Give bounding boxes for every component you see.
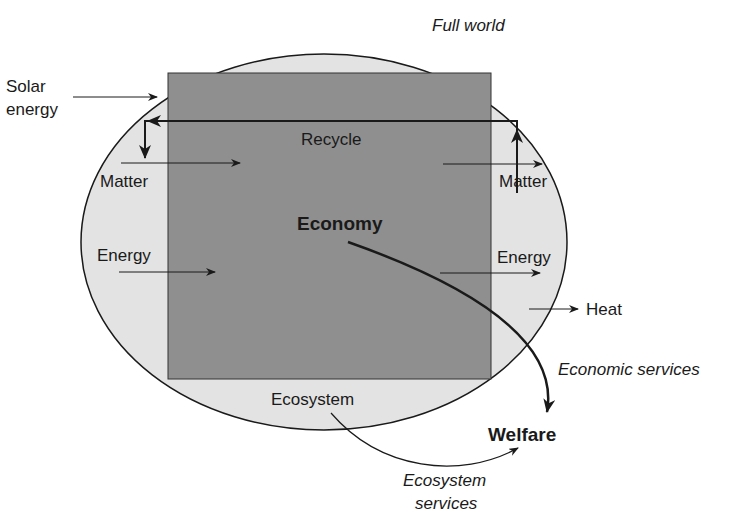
ecosystem-services-label-line1: Ecosystem [403, 471, 486, 491]
welfare-label: Welfare [488, 425, 556, 445]
full-world-label: Full world [432, 16, 505, 36]
economic-services-label: Economic services [558, 360, 700, 380]
solar-label-line2: energy [6, 100, 58, 120]
solar-label-line1: Solar [6, 77, 46, 97]
energy-out-label: Energy [497, 248, 551, 268]
recycle-label: Recycle [301, 130, 361, 150]
ecosystem-label: Ecosystem [271, 390, 354, 410]
matter-out-label: Matter [499, 172, 547, 192]
matter-in-label: Matter [100, 172, 148, 192]
energy-in-label: Energy [97, 246, 151, 266]
economy-label: Economy [297, 214, 383, 234]
heat-label: Heat [586, 300, 622, 320]
ecosystem-services-label-line2: services [415, 494, 477, 514]
